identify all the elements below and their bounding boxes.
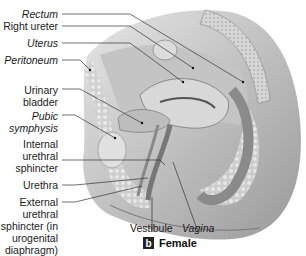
caption-text: Female (159, 237, 197, 249)
label-rectum: Rectum (22, 8, 58, 20)
label-peritoneum: Peritoneum (4, 54, 58, 66)
label-right-ureter: Right ureter (3, 20, 58, 32)
label-pubic-symphysis: Pubic symphysis (9, 110, 58, 134)
label-urethra: Urethra (23, 179, 58, 191)
label-urinary-bladder: Urinary bladder (23, 84, 58, 108)
label-vestibule: Vestibule (130, 222, 173, 234)
label-internal-urethral-sphincter: Internal urethral sphincter (15, 138, 58, 174)
label-uterus: Uterus (27, 37, 58, 49)
panel-letter-badge: b (143, 237, 154, 249)
figure-caption: b Female (143, 236, 197, 250)
label-vagina: Vagina (182, 222, 214, 234)
label-external-urethral-sphincter: External urethral sphincter (in urogenit… (1, 196, 58, 256)
